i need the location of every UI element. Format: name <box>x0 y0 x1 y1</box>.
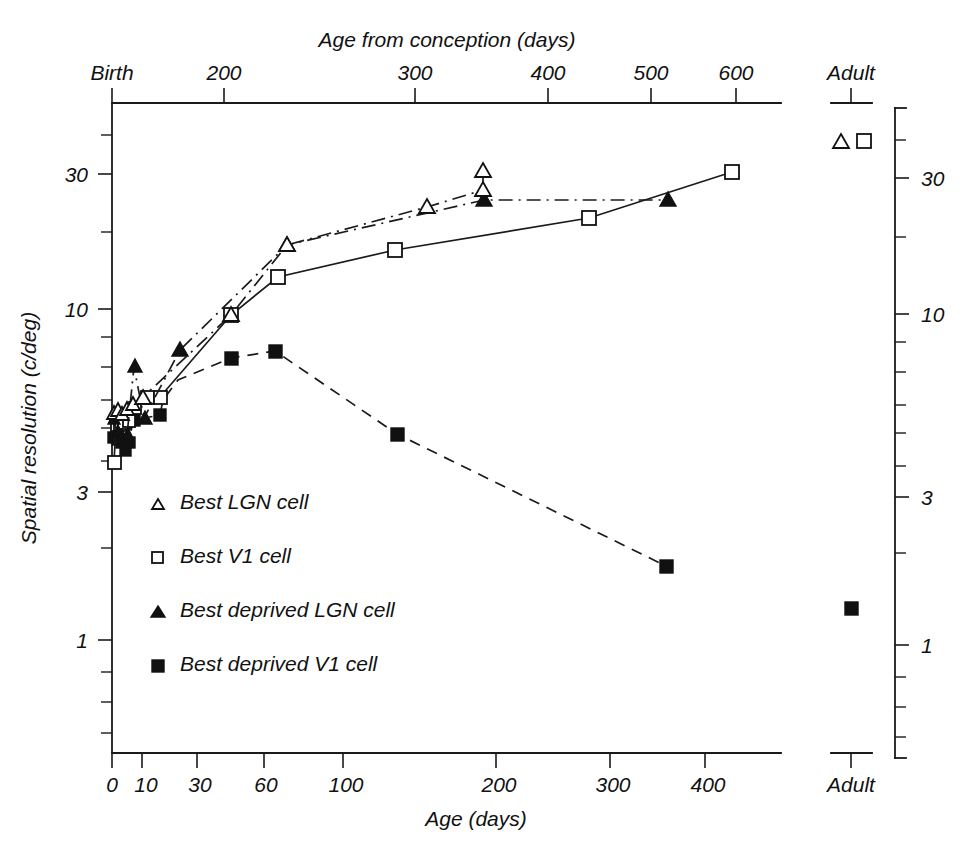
right-tick-label-30: 30 <box>921 167 945 190</box>
top-axis: Birth 200 300 400 500 600 Age from conce… <box>90 28 876 103</box>
bottom-adult-label: Adult <box>825 773 876 796</box>
series-best-deprived-lgn-cell <box>108 192 676 441</box>
top-tick-label-200: 200 <box>205 61 241 84</box>
data-point-marker <box>582 211 596 225</box>
series-line-best-v1-cell <box>114 172 732 462</box>
data-point-marker <box>660 560 673 573</box>
right-tick-label-1: 1 <box>921 634 933 657</box>
series-line-best-deprived-v1-cell <box>113 351 666 566</box>
legend-label-best-lgn-cell: Best LGN cell <box>180 490 310 513</box>
right-tick-label-3: 3 <box>921 486 933 509</box>
series-best-deprived-v1-cell <box>108 345 673 573</box>
bottom-tick-label-30: 30 <box>188 773 212 796</box>
top-axis-title: Age from conception (days) <box>317 28 576 51</box>
legend-label-best-v1-cell: Best V1 cell <box>180 544 292 567</box>
data-point-marker <box>725 165 739 179</box>
left-tick-label-3: 3 <box>76 481 88 504</box>
series-line-best-deprived-lgn-cell <box>114 200 668 436</box>
filled-triangle-icon <box>151 606 165 617</box>
adult-point-best-deprived-v1-cell <box>845 602 858 615</box>
bottom-tick-label-200: 200 <box>480 773 516 796</box>
chart-svg: Birth 200 300 400 500 600 Age from conce… <box>0 0 973 841</box>
right-axis: 30 10 3 1 <box>895 108 945 758</box>
data-point-marker <box>388 243 402 257</box>
bottom-tick-label-10: 10 <box>134 773 158 796</box>
legend-item-best-lgn-cell: Best LGN cell <box>152 490 310 513</box>
bottom-tick-label-300: 300 <box>595 773 630 796</box>
bottom-tick-label-100: 100 <box>328 773 363 796</box>
legend-item-best-v1-cell: Best V1 cell <box>152 544 292 567</box>
top-tick-label-400: 400 <box>530 61 565 84</box>
bottom-axis: 0 10 30 60 100 200 300 400 Age (days) Ad… <box>106 753 876 830</box>
legend-item-best-deprived-v1-cell: Best deprived V1 cell <box>152 652 379 675</box>
legend-label-best-deprived-lgn-cell: Best deprived LGN cell <box>180 598 396 621</box>
bottom-tick-label-400: 400 <box>690 773 725 796</box>
left-tick-label-30: 30 <box>65 163 89 186</box>
series-line-best-lgn-cell <box>114 190 483 415</box>
data-point-marker <box>225 352 238 365</box>
adult-point-best-lgn-cell <box>833 134 849 148</box>
data-point-marker <box>108 456 121 469</box>
bottom-axis-title: Age (days) <box>423 807 527 830</box>
left-axis-title: Spatial resolution (c/deg) <box>17 312 40 544</box>
data-point-marker <box>271 270 285 284</box>
open-square-icon <box>152 552 163 563</box>
top-tick-label-600: 600 <box>718 61 753 84</box>
data-point-marker <box>391 428 404 441</box>
filled-square-icon <box>152 660 164 672</box>
top-adult-label: Adult <box>825 61 876 84</box>
series-best-lgn-cell <box>107 163 491 420</box>
right-tick-label-10: 10 <box>921 303 945 326</box>
legend: Best LGN cell Best V1 cell Best deprived… <box>151 490 396 675</box>
bottom-tick-label-0: 0 <box>106 773 118 796</box>
data-point-marker <box>269 345 282 358</box>
legend-label-best-deprived-v1-cell: Best deprived V1 cell <box>180 652 379 675</box>
data-point-marker <box>475 182 491 196</box>
top-tick-label-300: 300 <box>397 61 432 84</box>
left-tick-label-10: 10 <box>65 298 89 321</box>
figure-container: Birth 200 300 400 500 600 Age from conce… <box>0 0 973 841</box>
left-tick-label-1: 1 <box>76 629 88 652</box>
data-point-marker <box>154 391 167 404</box>
top-tick-label-birth: Birth <box>90 61 133 84</box>
legend-item-best-deprived-lgn-cell: Best deprived LGN cell <box>151 598 396 621</box>
adult-data-points <box>833 134 871 615</box>
bottom-tick-label-60: 60 <box>254 773 278 796</box>
data-point-marker <box>128 359 142 372</box>
data-point-marker <box>475 163 491 177</box>
open-triangle-icon <box>152 499 164 509</box>
top-tick-label-500: 500 <box>633 61 668 84</box>
left-axis: 30 10 3 1 Spatial resolution (c/deg) <box>17 103 112 753</box>
adult-point-best-v1-cell <box>857 134 871 148</box>
data-point-marker <box>154 409 166 421</box>
